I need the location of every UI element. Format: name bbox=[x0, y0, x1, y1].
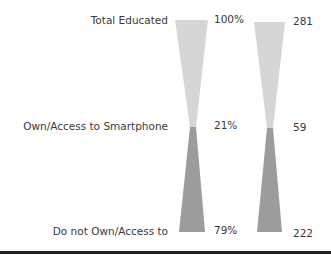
count-own-access: 59 bbox=[293, 121, 306, 133]
percent-do-not-own: 79% bbox=[214, 224, 237, 236]
percent-own-access: 21% bbox=[214, 119, 237, 131]
label-own-access-smartphone: Own/Access to Smartphone bbox=[23, 120, 168, 132]
count-total: 281 bbox=[293, 15, 313, 27]
percent-total: 100% bbox=[214, 13, 244, 25]
funnel-percent-lower bbox=[179, 127, 205, 232]
funnel-count-upper bbox=[254, 22, 285, 128]
funnel-percent-upper bbox=[175, 20, 208, 127]
label-do-not-own-access: Do not Own/Access to bbox=[53, 225, 168, 237]
count-do-not-own: 222 bbox=[293, 227, 313, 239]
label-total-educated: Total Educated bbox=[91, 14, 168, 26]
bottom-divider-line bbox=[0, 251, 331, 254]
funnel-count-lower bbox=[257, 128, 282, 232]
